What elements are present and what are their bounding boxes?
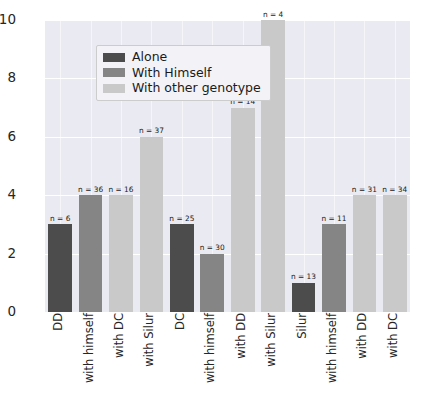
x-axis-tick-label: with DC bbox=[388, 313, 400, 358]
x-axis-tick-label: with Silur bbox=[266, 313, 278, 367]
y-axis-tick-label: 0 bbox=[0, 305, 16, 319]
bar: n = 25 bbox=[170, 224, 194, 312]
bar-chart-figure: 0246810 n = 6n = 36n = 16n = 37n = 25n =… bbox=[0, 0, 433, 415]
y-axis-tick-label: 4 bbox=[0, 188, 16, 202]
bar-value-label: n = 13 bbox=[291, 273, 316, 280]
x-axis-tick-label: with Silur bbox=[144, 313, 156, 367]
x-axis-tick-label: with himself bbox=[205, 313, 217, 383]
legend-item: Alone bbox=[103, 51, 261, 64]
bar-value-label: n = 31 bbox=[352, 186, 377, 193]
bar: n = 36 bbox=[79, 195, 103, 312]
legend: AloneWith HimselfWith other genotype bbox=[96, 45, 271, 101]
bar: n = 31 bbox=[353, 195, 377, 312]
gridline bbox=[45, 20, 410, 21]
bar: n = 11 bbox=[322, 224, 346, 312]
bar: n = 14 bbox=[231, 108, 255, 312]
legend-swatch bbox=[103, 68, 125, 77]
x-axis-tick-label: with himself bbox=[327, 313, 339, 383]
bar-value-label: n = 4 bbox=[263, 11, 283, 18]
y-axis-tick-label: 8 bbox=[0, 71, 16, 85]
bar: n = 16 bbox=[109, 195, 133, 312]
bar: n = 37 bbox=[140, 137, 164, 312]
legend-label: With other genotype bbox=[132, 82, 261, 95]
legend-item: With other genotype bbox=[103, 82, 261, 95]
bar-value-label: n = 36 bbox=[78, 186, 103, 193]
bar-value-label: n = 37 bbox=[139, 127, 164, 134]
bar: n = 6 bbox=[48, 224, 72, 312]
vertical-gridline bbox=[304, 20, 305, 312]
legend-swatch bbox=[103, 84, 125, 93]
legend-item: With Himself bbox=[103, 67, 261, 80]
x-axis-tick-label: with DC bbox=[114, 313, 126, 358]
legend-swatch bbox=[103, 53, 125, 62]
bar-value-label: n = 6 bbox=[50, 215, 70, 222]
y-axis-tick-label: 10 bbox=[0, 13, 16, 27]
bar: n = 34 bbox=[383, 195, 407, 312]
x-axis-tick-label: Silur bbox=[297, 313, 309, 339]
x-axis-tick-label: with DD bbox=[236, 313, 248, 359]
gridline bbox=[45, 137, 410, 138]
bar: n = 13 bbox=[292, 283, 316, 312]
bar-value-label: n = 16 bbox=[109, 186, 134, 193]
legend-label: Alone bbox=[132, 51, 167, 64]
bar: n = 30 bbox=[200, 254, 224, 312]
y-axis-tick-label: 2 bbox=[0, 247, 16, 261]
bar-value-label: n = 11 bbox=[321, 215, 346, 222]
bar-value-label: n = 25 bbox=[169, 215, 194, 222]
bar-value-label: n = 34 bbox=[382, 186, 407, 193]
x-axis: DDwith himselfwith DCwith SilurDCwith hi… bbox=[45, 313, 410, 413]
legend-label: With Himself bbox=[132, 67, 211, 80]
x-axis-tick-label: with DD bbox=[357, 313, 369, 359]
plot-area: n = 6n = 36n = 16n = 37n = 25n = 30n = 1… bbox=[45, 20, 410, 312]
bar-value-label: n = 30 bbox=[200, 244, 225, 251]
y-axis-tick-label: 6 bbox=[0, 130, 16, 144]
x-axis-tick-label: DC bbox=[175, 313, 187, 330]
x-axis-tick-label: DD bbox=[53, 313, 65, 331]
x-axis-tick-label: with himself bbox=[84, 313, 96, 383]
